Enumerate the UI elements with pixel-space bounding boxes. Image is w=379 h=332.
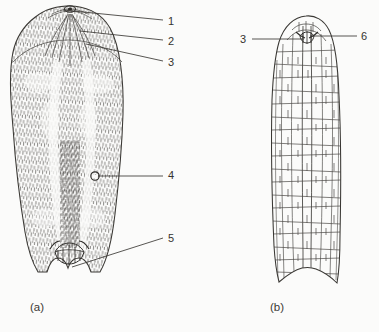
panel-a-drawing bbox=[8, 4, 132, 276]
figure-container: 1 2 3 4 5 3 6 (a) (b) bbox=[0, 0, 379, 332]
mid-body-organ-lumen bbox=[94, 175, 97, 178]
callout-label-3: 3 bbox=[168, 57, 174, 68]
callout-label-5: 5 bbox=[168, 233, 174, 244]
callout-label-2: 2 bbox=[168, 36, 174, 47]
apical-organ-center bbox=[68, 8, 72, 11]
callout-label-4: 4 bbox=[168, 170, 174, 181]
callout-label-3b: 3 bbox=[240, 34, 246, 45]
callout-label-1: 1 bbox=[168, 16, 174, 27]
panel-caption-b: (b) bbox=[270, 302, 284, 314]
panel-b-drawing bbox=[272, 16, 341, 283]
panel-b-outline bbox=[272, 16, 341, 283]
panel-b-apical-cluster bbox=[296, 31, 318, 44]
callout-label-6: 6 bbox=[361, 31, 367, 42]
panel-caption-a: (a) bbox=[30, 302, 44, 314]
figure-drawing bbox=[0, 0, 379, 332]
